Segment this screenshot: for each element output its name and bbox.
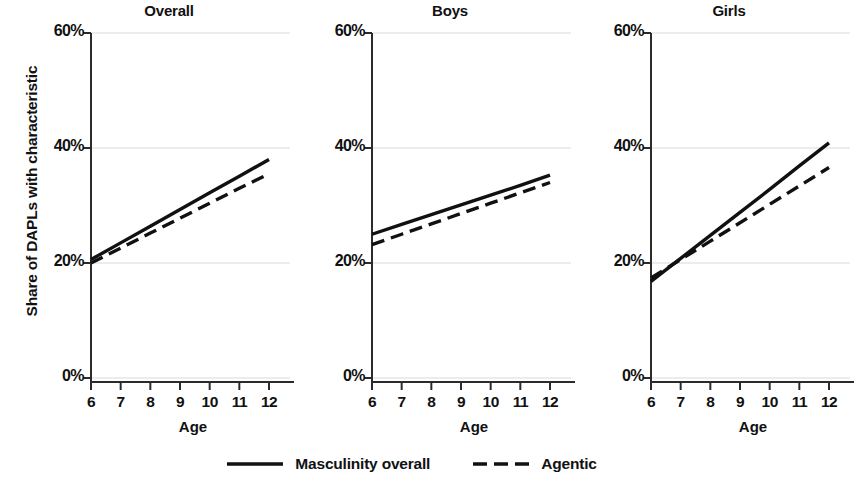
plot-area: [604, 0, 854, 400]
x-tick-label: 6: [358, 393, 386, 411]
x-tick-label: 9: [447, 393, 475, 411]
x-tick-label: 12: [536, 393, 564, 411]
plot-area: [325, 0, 575, 400]
y-tick-label: 40%: [30, 137, 84, 155]
x-tick-label: 6: [637, 393, 665, 411]
x-tick-label: 10: [196, 393, 224, 411]
chart-panel-girls: Girls0%20%40%60%6789101112Age: [604, 0, 854, 450]
x-tick-label: 7: [107, 393, 135, 411]
y-tick-label: 40%: [311, 137, 365, 155]
y-tick-label: 20%: [590, 252, 644, 270]
series-line-agentic: [372, 183, 550, 245]
x-tick-label: 11: [225, 393, 253, 411]
x-axis-title: Age: [81, 418, 305, 435]
x-tick-label: 7: [667, 393, 695, 411]
chart-panel-overall: Overall0%20%40%60%6789101112Age: [44, 0, 294, 450]
x-tick-label: 9: [726, 393, 754, 411]
legend-swatch-solid: [226, 459, 284, 469]
x-tick-label: 8: [696, 393, 724, 411]
y-tick-label: 60%: [590, 22, 644, 40]
series-line-agentic: [651, 168, 829, 278]
x-axis-title: Age: [641, 418, 858, 435]
x-tick-label: 11: [785, 393, 813, 411]
x-tick-label: 10: [756, 393, 784, 411]
x-tick-label: 11: [506, 393, 534, 411]
x-tick-label: 10: [477, 393, 505, 411]
x-tick-label: 8: [417, 393, 445, 411]
x-tick-label: 7: [388, 393, 416, 411]
legend-item: Masculinity overall: [226, 455, 430, 473]
legend-label: Agentic: [541, 455, 596, 473]
x-tick-label: 9: [166, 393, 194, 411]
y-tick-label: 0%: [590, 367, 644, 385]
x-tick-label: 12: [255, 393, 283, 411]
x-tick-label: 8: [136, 393, 164, 411]
y-tick-label: 20%: [30, 252, 84, 270]
series-line-agentic: [91, 174, 269, 263]
y-tick-label: 60%: [311, 22, 365, 40]
legend-swatch-dashed: [472, 459, 530, 469]
legend-label: Masculinity overall: [295, 455, 430, 473]
x-tick-label: 6: [77, 393, 105, 411]
y-tick-label: 0%: [311, 367, 365, 385]
series-line-masculinity-overall: [91, 160, 269, 260]
y-tick-label: 40%: [590, 137, 644, 155]
y-axis-title: Share of DAPLs with characteristic: [23, 41, 41, 341]
y-tick-label: 20%: [311, 252, 365, 270]
plot-area: [44, 0, 294, 400]
y-tick-label: 60%: [30, 22, 84, 40]
x-axis-title: Age: [362, 418, 586, 435]
y-tick-label: 0%: [30, 367, 84, 385]
series-line-masculinity-overall: [372, 175, 550, 234]
chart-panel-boys: Boys0%20%40%60%6789101112Age: [325, 0, 575, 450]
chart-legend: Masculinity overallAgentic: [0, 455, 823, 473]
legend-item: Agentic: [472, 455, 596, 473]
x-tick-label: 12: [815, 393, 843, 411]
